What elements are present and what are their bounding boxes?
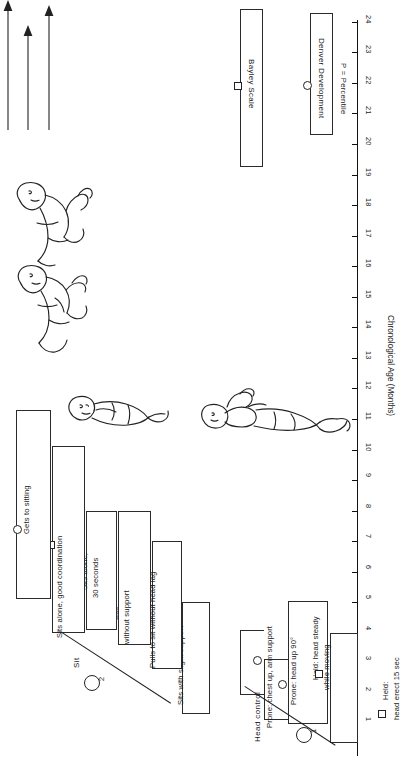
axis-tick-label: 8 <box>364 504 373 508</box>
sit-number-badge: 2 <box>84 675 100 691</box>
axis-tick-label: 9 <box>364 473 373 477</box>
axis-tick-label: 11 <box>364 412 373 420</box>
bar-label-sits-without-support-line2: without support <box>122 590 131 644</box>
sit-number: 2 <box>93 671 109 687</box>
axis-tick-label: 19 <box>364 168 373 177</box>
axis-title: Chronological Age (Months) <box>386 315 395 416</box>
axis-tick-label: 12 <box>364 381 373 390</box>
bar-held-head-erect <box>330 633 358 743</box>
bar-label-gets-to-sitting: Gets to sitting <box>22 485 31 534</box>
axis-tick-label: 5 <box>364 595 373 599</box>
axis-tick-label: 3 <box>364 656 373 660</box>
axis-tick <box>352 83 357 84</box>
axis-tick-label: 6 <box>364 565 373 569</box>
axis-tick <box>352 205 357 206</box>
infant-sitting-illustration-c <box>62 382 170 442</box>
axis-tick <box>352 541 357 542</box>
chart-canvas: 123456789101112131415161718192021222324 … <box>0 0 403 772</box>
axis-tick-label: 1 <box>364 717 373 721</box>
axis-tick-label: 4 <box>364 626 373 630</box>
axis-tick-label: 15 <box>364 290 373 299</box>
axis-tick <box>352 572 357 573</box>
axis-tick <box>352 22 357 23</box>
head-control-number: 1 <box>305 723 321 739</box>
head-control-number-badge: 1 <box>296 727 312 743</box>
head-control-title: Head control <box>253 692 262 742</box>
axis-tick <box>352 602 357 603</box>
axis-tick <box>352 511 357 512</box>
axis-tick-label: 22 <box>364 76 373 85</box>
bar-label-prone-chest-up: Prone: chest up, arm support <box>265 626 274 728</box>
arrow-head-control <box>0 0 16 130</box>
bar-label-prone-head-up-90: Prone: head up 90° <box>289 637 298 705</box>
bar-label-held-head-erect-line1: Held: <box>381 682 390 700</box>
axis-tick-label: 23 <box>364 45 373 54</box>
axis-tick <box>352 113 357 114</box>
axis-tick <box>352 419 357 420</box>
legend-denver-marker <box>303 81 312 90</box>
axis-tick-label: 16 <box>364 259 373 268</box>
infant-sitting-illustration-b <box>8 258 98 358</box>
legend-denver-label: Denver Development <box>317 38 326 119</box>
arrow-sit-lower <box>20 25 36 130</box>
arrow-sit-upper <box>41 5 57 130</box>
axis-tick-label: 10 <box>364 443 373 452</box>
marker-held-head-steady <box>315 670 323 678</box>
bar-label-sits-alone-good-coordination: Sits alone, good coordination <box>55 536 64 638</box>
legend-percentile-note: P = Percentile <box>339 63 348 115</box>
axis-tick <box>352 480 357 481</box>
axis-tick-label: 13 <box>364 351 373 360</box>
axis-tick-label: 17 <box>364 229 373 238</box>
axis-tick <box>352 266 357 267</box>
bar-label-held-head-erect-line2: head erect 15 sec <box>392 657 401 720</box>
axis-tick <box>352 175 357 176</box>
axis-tick-label: 21 <box>364 106 373 115</box>
legend-bayley-marker <box>234 82 242 90</box>
bar-sits-slight-support <box>182 602 210 714</box>
axis-tick <box>352 327 357 328</box>
axis-tick <box>352 52 357 53</box>
marker-gets-to-sitting <box>13 525 22 534</box>
axis-tick <box>352 297 357 298</box>
axis-tick <box>352 236 357 237</box>
infant-held-upright-illustration <box>196 386 352 456</box>
marker-prone-chest-up <box>253 656 262 665</box>
legend-bayley-label: Bayley Scale <box>247 59 256 109</box>
marker-held-head-erect <box>378 710 386 718</box>
axis-tick <box>352 450 357 451</box>
sit-title: Sit <box>72 657 81 668</box>
axis-tick-label: 14 <box>364 320 373 329</box>
axis-tick-label: 24 <box>364 15 373 24</box>
axis-tick <box>352 358 357 359</box>
bar-label-sits-alone-30s-line2: 30 seconds <box>91 558 100 598</box>
axis-tick-label: 7 <box>364 534 373 538</box>
axis-tick-label: 2 <box>364 687 373 691</box>
axis-tick <box>352 388 357 389</box>
axis-tick-label: 20 <box>364 137 373 146</box>
marker-prone-head-up-90 <box>278 680 287 689</box>
axis-tick <box>352 144 357 145</box>
bar-label-held-head-steady-line2: while moving <box>322 644 331 690</box>
infant-sitting-illustration-a <box>8 175 98 267</box>
axis-tick-label: 18 <box>364 198 373 207</box>
